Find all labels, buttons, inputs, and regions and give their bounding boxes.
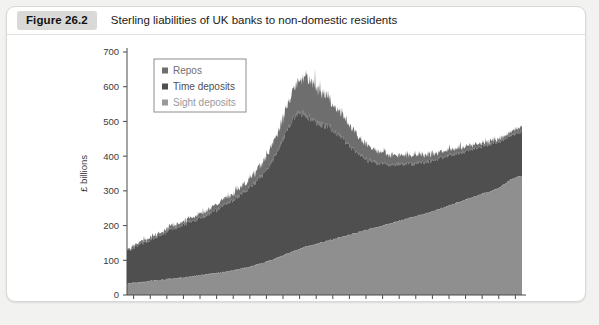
y-axis-tick-label: 100: [103, 255, 119, 266]
x-axis-tick-label: 2002: [189, 301, 210, 302]
chart-canvas: 0100200300400500600700£ billions19982000…: [7, 35, 586, 302]
y-axis-tick-label: 300: [103, 185, 119, 196]
x-axis-tick-label: 2020: [488, 301, 509, 302]
x-axis-tick-label: 2018: [455, 301, 476, 302]
legend-swatch: [162, 68, 168, 74]
y-axis-title: £ billions: [78, 155, 89, 192]
y-axis-tick-label: 600: [103, 81, 119, 92]
legend-label: Time deposits: [173, 81, 235, 92]
figure-number-badge: Figure 26.2: [17, 11, 97, 31]
x-axis-tick-label: 2008: [289, 301, 310, 302]
x-axis-tick-label: 2014: [389, 301, 410, 302]
x-axis-tick-label: 2006: [256, 301, 277, 302]
x-axis-tick-label: 2004: [223, 301, 244, 302]
y-axis-tick-label: 700: [103, 46, 119, 57]
legend-label: Repos: [173, 65, 202, 76]
y-axis-tick-label: 200: [103, 220, 119, 231]
x-axis-tick-label: 2016: [422, 301, 443, 302]
y-axis-tick-label: 500: [103, 116, 119, 127]
legend-swatch: [162, 100, 168, 106]
figure-source-note: [6, 308, 586, 322]
x-axis-tick-label: 2012: [355, 301, 376, 302]
figure-panel: Figure 26.2 Sterling liabilities of UK b…: [6, 6, 586, 302]
figure-header: Figure 26.2 Sterling liabilities of UK b…: [7, 7, 585, 35]
x-axis-tick-label: 2010: [322, 301, 343, 302]
legend-label: Sight deposits: [173, 97, 236, 108]
x-axis-tick-label: 2000: [156, 301, 177, 302]
x-axis-tick-label: 1998: [123, 301, 144, 302]
y-axis-tick-label: 0: [114, 289, 119, 300]
stacked-area-chart: 0100200300400500600700£ billions19982000…: [7, 35, 586, 302]
legend-swatch: [162, 84, 168, 90]
chart-legend: ReposTime depositsSight deposits: [154, 59, 246, 112]
y-axis-tick-label: 400: [103, 151, 119, 162]
figure-title: Sterling liabilities of UK banks to non-…: [111, 15, 397, 27]
